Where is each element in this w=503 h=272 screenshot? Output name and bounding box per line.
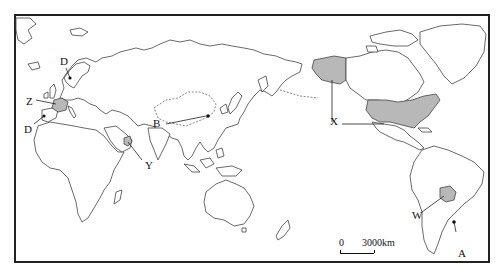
alaska-shaded	[312, 56, 346, 84]
label-z: Z	[26, 96, 33, 107]
label-b: B	[153, 118, 160, 129]
label-y: Y	[145, 160, 153, 171]
greenland-west	[16, 18, 36, 44]
scale-tick-right	[374, 250, 375, 253]
scale-distance: 3000km	[362, 238, 395, 248]
scale-zero: 0	[339, 238, 344, 248]
world-map	[0, 0, 503, 272]
label-a: A	[458, 248, 466, 259]
canada	[346, 50, 424, 104]
label-d: D	[24, 124, 32, 135]
label-w: W	[412, 210, 422, 221]
france-shaded	[52, 98, 68, 112]
scale-tick-left	[340, 250, 341, 253]
greenland	[420, 24, 486, 84]
label-c: D	[60, 56, 68, 67]
australia	[204, 180, 254, 226]
india	[148, 128, 170, 160]
label-x: X	[330, 116, 338, 127]
scale-bar	[340, 253, 374, 254]
